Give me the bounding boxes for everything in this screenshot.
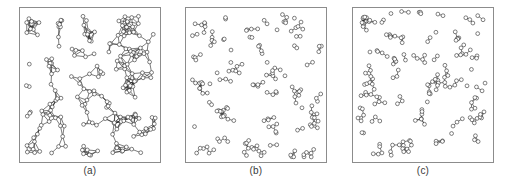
figure-panel-row: (a) (b) (c) (0, 0, 512, 192)
panel-b-caption: (b) (185, 164, 327, 178)
panel-c (352, 7, 494, 163)
panel-b-network-plot (185, 7, 327, 163)
panel-b (185, 7, 327, 163)
panel-a (19, 7, 161, 163)
panel-c-network-plot (352, 7, 494, 163)
panel-a-caption: (a) (19, 164, 161, 178)
panel-c-caption: (c) (352, 164, 494, 178)
panel-a-network-plot (19, 7, 161, 163)
